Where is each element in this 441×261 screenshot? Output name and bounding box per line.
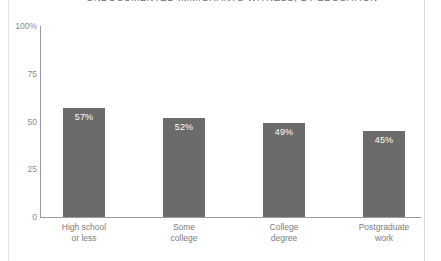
bar: 57% [63,108,105,217]
x-tick-label-line: Postgraduate [334,222,434,233]
x-tick-label: Postgraduate work [334,222,434,243]
y-tick-label: 100% [3,21,37,31]
y-tick-label: 0 [3,212,37,222]
x-tick-label: Some college [134,222,234,243]
y-axis-tick-labels: 100% 75 50 25 0 [0,0,37,261]
x-tick-label: High school or less [34,222,134,243]
bar-value-label: 52% [163,122,205,132]
bar: 52% [163,118,205,217]
bar-value-label: 57% [63,112,105,122]
x-tick-label-line: College [234,222,334,233]
x-tick-label-line: Some [134,222,234,233]
bar-chart: UNDOCUMENTED IMMIGRANTS WITNESS, BY EDUC… [0,0,441,261]
bar-value-label: 45% [363,135,405,145]
x-tick-label-line: work [334,233,434,244]
bar: 45% [363,131,405,217]
chart-title: UNDOCUMENTED IMMIGRANTS WITNESS, BY EDUC… [40,0,424,3]
bar: 49% [263,123,305,217]
y-tick-label: 50 [3,117,37,127]
x-tick-label-line: or less [34,233,134,244]
x-tick-label-line: High school [34,222,134,233]
x-axis-line [40,217,421,218]
bar-value-label: 49% [263,127,305,137]
plot-area: 57% 52% 49% 45% [40,26,421,217]
x-tick-label-line: college [134,233,234,244]
x-tick-label-line: degree [234,233,334,244]
y-tick-label: 75 [3,69,37,79]
y-tick-label: 25 [3,164,37,174]
x-tick-label: College degree [234,222,334,243]
